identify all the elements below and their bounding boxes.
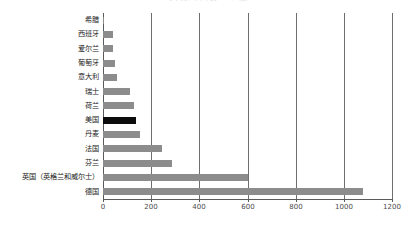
bar-row: 荷兰 — [0, 99, 413, 113]
bar-row: 希腊 — [0, 13, 413, 27]
bar-row: 德国 — [0, 185, 413, 199]
bar-row: 爱尔兰 — [0, 42, 413, 56]
bar-0 — [103, 17, 104, 24]
bar-9 — [103, 145, 162, 152]
category-label-10: 芬兰 — [85, 156, 99, 170]
category-label-4: 意大利 — [78, 70, 99, 84]
category-label-5: 瑞士 — [85, 85, 99, 99]
bar-11 — [103, 174, 248, 181]
category-label-11: 英国（英格兰和威尔士） — [22, 170, 99, 184]
category-label-0: 希腊 — [85, 13, 99, 27]
bar-row: 芬兰 — [0, 156, 413, 170]
bar-3 — [103, 60, 115, 67]
bar-10 — [103, 160, 172, 167]
horizontal-bar-chart: 每十万人口中的……人数 020040060080010001200 希腊西班牙爱… — [0, 0, 413, 231]
x-tick-mark-0 — [103, 199, 104, 202]
category-label-3: 葡萄牙 — [78, 56, 99, 70]
x-tick-mark-1200 — [392, 199, 393, 202]
bar-row: 西班牙 — [0, 27, 413, 41]
bar-4 — [103, 74, 117, 81]
x-tick-mark-800 — [296, 199, 297, 202]
bar-6 — [103, 102, 134, 109]
category-label-8: 丹麦 — [85, 127, 99, 141]
bar-1 — [103, 31, 113, 38]
x-tick-label-1000: 1000 — [324, 203, 364, 212]
bar-row: 意大利 — [0, 70, 413, 84]
x-tick-label-800: 800 — [276, 203, 316, 212]
bar-5 — [103, 88, 130, 95]
bar-7 — [103, 117, 136, 124]
bar-row: 葡萄牙 — [0, 56, 413, 70]
bar-row: 法国 — [0, 142, 413, 156]
bar-12 — [103, 188, 363, 195]
x-tick-mark-600 — [248, 199, 249, 202]
category-label-1: 西班牙 — [78, 27, 99, 41]
category-label-7: 美国 — [85, 113, 99, 127]
x-tick-mark-200 — [151, 199, 152, 202]
bar-row: 瑞士 — [0, 85, 413, 99]
x-tick-label-400: 400 — [179, 203, 219, 212]
bar-2 — [103, 45, 113, 52]
bar-row: 英国（英格兰和威尔士） — [0, 170, 413, 184]
bar-8 — [103, 131, 140, 138]
x-tick-mark-400 — [199, 199, 200, 202]
x-tick-label-1200: 1200 — [372, 203, 412, 212]
category-label-12: 德国 — [85, 185, 99, 199]
category-label-6: 荷兰 — [85, 99, 99, 113]
category-label-9: 法国 — [85, 142, 99, 156]
category-label-2: 爱尔兰 — [78, 42, 99, 56]
x-tick-label-0: 0 — [83, 203, 123, 212]
x-tick-label-200: 200 — [131, 203, 171, 212]
x-tick-label-600: 600 — [228, 203, 268, 212]
bar-row: 丹麦 — [0, 127, 413, 141]
chart-title: 每十万人口中的……人数 — [0, 0, 413, 2]
bar-row: 美国 — [0, 113, 413, 127]
x-tick-mark-1000 — [344, 199, 345, 202]
